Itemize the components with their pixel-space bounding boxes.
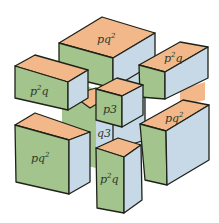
cube-decomposition-diagram: pq2 p2q p2q p3 q3 pq2 pq2 p2q [0,0,219,223]
diagram-canvas: pq2 p2q p2q p3 q3 pq2 pq2 p2q [0,0,219,223]
label-back-q3: q3 [97,127,111,140]
label-center-p3: p3 [103,103,117,116]
